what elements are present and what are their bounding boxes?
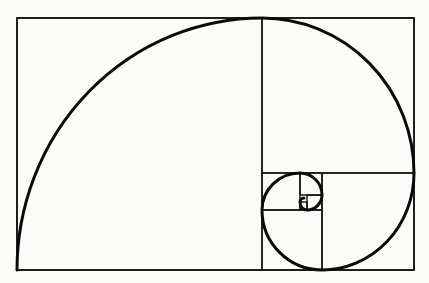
square-2 xyxy=(262,18,414,173)
golden-spiral-diagram xyxy=(0,0,429,283)
square-1 xyxy=(17,18,262,270)
golden-spiral-curve xyxy=(17,18,414,270)
golden-rectangle-subdivisions xyxy=(17,18,414,270)
outer-golden-rectangle xyxy=(17,18,414,270)
